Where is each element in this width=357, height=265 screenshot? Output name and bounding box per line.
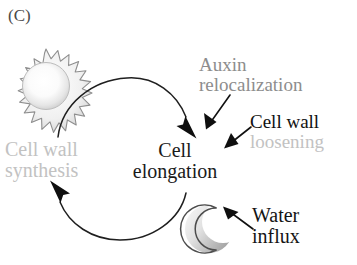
label-cell-wall-loosening-line1: Cell wall bbox=[250, 112, 324, 132]
label-cell-wall-synthesis: Cell wall synthesis bbox=[5, 139, 113, 181]
label-water-influx-line2: influx bbox=[252, 226, 300, 247]
arrow-auxin-to-elongation bbox=[204, 95, 230, 130]
figure-panel-c: (C) Cell elongation Cell wall synthesis … bbox=[0, 0, 357, 265]
label-cell-wall-synthesis-line2: synthesis bbox=[5, 159, 78, 181]
arrow-water-to-elongation bbox=[223, 207, 253, 230]
label-water-influx-line1: Water bbox=[252, 204, 299, 226]
label-auxin-relocalization-line1: Auxin bbox=[199, 54, 247, 75]
label-cell-wall-loosening: Cell wall loosening bbox=[250, 112, 324, 152]
label-cell-wall-loosening-line2: loosening bbox=[250, 132, 324, 152]
node-cell-elongation-line2: elongation bbox=[119, 161, 231, 182]
node-cell-elongation-line1: Cell bbox=[158, 139, 191, 161]
label-auxin-relocalization-line2: relocalization bbox=[199, 74, 302, 95]
label-auxin-relocalization: Auxin relocalization bbox=[199, 55, 302, 95]
node-cell-elongation: Cell elongation bbox=[119, 140, 231, 182]
label-water-influx: Water influx bbox=[252, 205, 300, 247]
cycle-arrow-elongation-to-synthesis bbox=[50, 181, 186, 241]
label-cell-wall-synthesis-line1: Cell wall bbox=[5, 138, 78, 160]
moon-icon bbox=[181, 203, 235, 255]
panel-label: (C) bbox=[8, 7, 31, 25]
sun-icon bbox=[18, 49, 92, 132]
cycle-arrow-synthesis-to-elongation bbox=[58, 78, 197, 139]
